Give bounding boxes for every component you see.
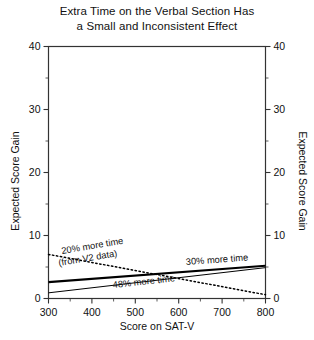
svg-text:20: 20 <box>29 166 41 178</box>
chart-title: Extra Time on the Verbal Section Has a S… <box>0 4 314 34</box>
svg-text:500: 500 <box>127 306 145 318</box>
x-axis-tick-labels: 300400500600700800 <box>40 306 275 318</box>
svg-text:40: 40 <box>29 40 41 52</box>
svg-text:40: 40 <box>274 40 286 52</box>
svg-text:30: 30 <box>29 103 41 115</box>
svg-text:0: 0 <box>274 292 280 304</box>
chart-title-line-2: a Small and Inconsistent Effect <box>0 19 314 34</box>
y-axis-ticks-left <box>44 47 49 299</box>
svg-text:10: 10 <box>274 229 286 241</box>
chart-title-line-1: Extra Time on the Verbal Section Has <box>0 4 314 19</box>
svg-text:800: 800 <box>257 306 275 318</box>
y-axis-tick-labels-left: 010203040 <box>29 40 41 304</box>
y-axis-tick-labels-right: 010203040 <box>274 40 286 304</box>
series-label-30-percent: 30% more time <box>185 252 248 267</box>
svg-text:400: 400 <box>83 306 101 318</box>
y-axis-title-left: Expected Score Gain <box>9 121 21 241</box>
svg-text:10: 10 <box>29 229 41 241</box>
svg-text:300: 300 <box>40 306 58 318</box>
svg-text:30: 30 <box>274 103 286 115</box>
chart-figure: Extra Time on the Verbal Section Has a S… <box>0 0 314 340</box>
x-axis-ticks <box>49 299 266 304</box>
svg-text:700: 700 <box>213 306 231 318</box>
svg-text:0: 0 <box>35 292 41 304</box>
y-axis-ticks-right <box>266 47 271 299</box>
svg-text:600: 600 <box>170 306 188 318</box>
y-axis-title-right: Expected Score Gain <box>297 121 309 241</box>
plot-area: 010203040 010203040 300400500600700800 2… <box>0 0 314 340</box>
svg-text:20: 20 <box>274 166 286 178</box>
x-axis-title: Score on SAT-V <box>0 320 314 332</box>
